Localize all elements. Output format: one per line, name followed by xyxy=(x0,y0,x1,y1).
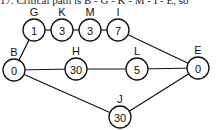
node-label: B xyxy=(10,46,17,58)
node-value: 5 xyxy=(134,64,140,76)
node-g: 1G xyxy=(23,6,45,41)
node-label: L xyxy=(134,45,140,57)
node-value: 0 xyxy=(11,65,17,77)
node-label: I xyxy=(116,6,119,18)
node-label: J xyxy=(117,93,123,105)
nodes-group: 0B1G3K3M7I30H5L0E30J xyxy=(3,6,209,128)
node-label: K xyxy=(58,6,66,18)
node-value: 1 xyxy=(31,25,37,37)
node-value: 3 xyxy=(59,25,65,37)
node-label: E xyxy=(194,44,201,56)
node-b: 0B xyxy=(3,46,25,81)
node-e: 0E xyxy=(187,44,209,79)
node-value: 30 xyxy=(70,64,82,76)
node-label: M xyxy=(85,6,94,18)
node-value: 3 xyxy=(87,25,93,37)
node-j: 30J xyxy=(109,93,131,128)
node-h: 30H xyxy=(65,45,87,80)
node-i: 7I xyxy=(107,6,129,41)
edge-b-j xyxy=(14,70,120,117)
node-l: 5L xyxy=(126,45,148,80)
edges-group xyxy=(14,30,198,117)
node-k: 3K xyxy=(51,6,73,41)
node-label: G xyxy=(30,6,39,18)
network-diagram: 0B1G3K3M7I30H5L0E30J xyxy=(0,0,216,130)
node-value: 7 xyxy=(115,25,121,37)
node-value: 0 xyxy=(195,63,201,75)
node-value: 30 xyxy=(114,112,126,124)
node-label: H xyxy=(72,45,80,57)
node-m: 3M xyxy=(79,6,101,41)
